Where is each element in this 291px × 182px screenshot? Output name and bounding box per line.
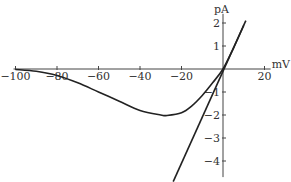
x-tick-label: −20 — [170, 70, 193, 83]
x-tick-label: −80 — [45, 70, 68, 83]
y-tick-label: 2 — [213, 17, 220, 30]
x-axis-label: mV — [272, 58, 291, 71]
x-tick-label: −100 — [0, 70, 30, 83]
axes: −100−80−60−40−2020−4−3−2−112mVpA — [0, 3, 291, 177]
y-tick-label: −3 — [204, 132, 220, 145]
iv-chart: −100−80−60−40−2020−4−3−2−112mVpA — [0, 0, 291, 182]
y-axis-label: pA — [214, 3, 230, 16]
x-tick-label: −40 — [128, 70, 151, 83]
y-tick-label: −4 — [204, 155, 220, 168]
y-tick-label: −2 — [204, 109, 220, 122]
x-tick-label: −60 — [87, 70, 110, 83]
y-tick-label: 1 — [213, 40, 220, 53]
x-tick-label: 20 — [258, 70, 272, 83]
